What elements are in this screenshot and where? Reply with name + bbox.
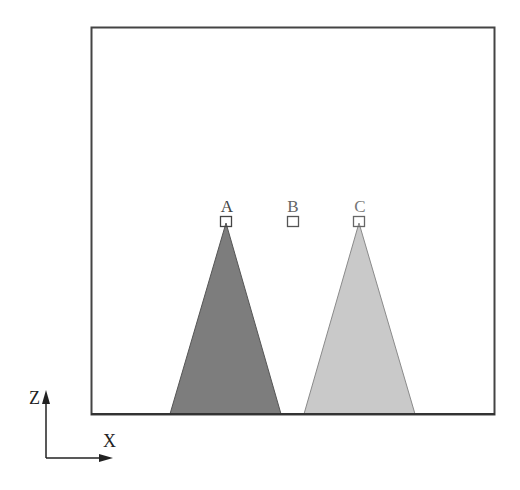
diagram-canvas: A B C Z X: [0, 0, 520, 490]
x-axis-arrow-icon: [99, 454, 113, 462]
point-a-label: A: [221, 197, 234, 216]
point-b-label: B: [287, 197, 298, 216]
z-axis-arrow-icon: [42, 390, 50, 404]
point-c-label: C: [354, 197, 365, 216]
frame-border: [92, 28, 495, 415]
x-axis-label: X: [103, 431, 116, 451]
z-axis-label: Z: [29, 388, 40, 408]
